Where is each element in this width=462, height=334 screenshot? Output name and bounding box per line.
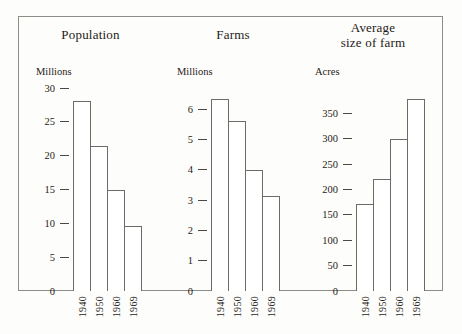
bar (407, 99, 425, 291)
tick-dash-icon (198, 139, 207, 140)
panel-population-bars (73, 88, 142, 291)
panel-farms-bars (211, 88, 280, 291)
panel-acres-title-line2: size of farm (303, 35, 443, 50)
bar (211, 99, 229, 291)
tick-dash-icon (60, 88, 69, 89)
bar (124, 226, 142, 291)
tick-dash-icon (60, 189, 69, 190)
x-tick-label: 1940 (73, 296, 91, 317)
tick-dash-icon (60, 155, 69, 156)
panel-population: Population Millions 30 25 20 15 10 5 0 1… (18, 0, 163, 334)
tick-dash-icon (343, 189, 352, 190)
bar (107, 190, 125, 292)
tick-dash-icon (60, 291, 69, 292)
panel-farms-x-axis: 1940 1950 1960 1969 (211, 291, 291, 334)
panel-farms: Farms Millions 6 5 4 3 2 1 0 1940 1950 1… (163, 0, 303, 334)
tick-dash-icon (343, 138, 352, 139)
tick-dash-icon (60, 257, 69, 258)
bar-chart-figure: Population Millions 30 25 20 15 10 5 0 1… (0, 0, 462, 334)
panel-acres-bars (356, 88, 425, 291)
x-tick-label: 1960 (245, 296, 263, 317)
panel-acres-plot: 350 300 250 200 150 100 50 0 (356, 88, 436, 291)
x-tick-label: 1950 (373, 296, 391, 317)
panel-acres-title-line1: Average (303, 20, 443, 35)
tick-dash-icon (198, 200, 207, 201)
bar (262, 196, 280, 291)
tick-dash-icon (343, 240, 352, 241)
panel-farms-unit-label: Millions (177, 66, 213, 77)
bar (373, 179, 391, 291)
panel-farms-plot: 6 5 4 3 2 1 0 (211, 88, 291, 291)
bar (73, 101, 91, 291)
tick-dash-icon (343, 113, 352, 114)
bar (356, 204, 374, 291)
x-tick-label: 1950 (228, 296, 246, 317)
panel-population-x-axis: 1940 1950 1960 1969 (73, 291, 153, 334)
tick-dash-icon (198, 291, 207, 292)
panel-acres-x-axis: 1940 1950 1960 1969 (356, 291, 436, 334)
x-tick-label: 1969 (124, 296, 142, 317)
tick-dash-icon (343, 265, 352, 266)
panel-population-title: Population (18, 27, 163, 42)
x-tick-label: 1960 (107, 296, 125, 317)
tick-dash-icon (343, 164, 352, 165)
bar (90, 146, 108, 291)
tick-dash-icon (343, 214, 352, 215)
tick-dash-icon (60, 223, 69, 224)
panel-acres-unit-label: Acres (315, 66, 340, 77)
tick-dash-icon (198, 260, 207, 261)
panel-population-unit-label: Millions (36, 66, 72, 77)
bar (390, 139, 408, 291)
tick-dash-icon (198, 169, 207, 170)
panel-acres-title: Average size of farm (303, 20, 443, 50)
tick-dash-icon (198, 230, 207, 231)
tick-dash-icon (198, 109, 207, 110)
x-tick-label: 1950 (90, 296, 108, 317)
x-tick-label: 1940 (211, 296, 229, 317)
x-tick-label: 1969 (262, 296, 280, 317)
tick-dash-icon (343, 291, 352, 292)
x-tick-label: 1940 (356, 296, 374, 317)
bar (245, 170, 263, 291)
x-tick-label: 1960 (390, 296, 408, 317)
panel-farms-title: Farms (163, 27, 303, 42)
tick-dash-icon (60, 121, 69, 122)
bar (228, 121, 246, 291)
panel-population-plot: 30 25 20 15 10 5 0 (73, 88, 153, 291)
panel-acres: Average size of farm Acres 350 300 250 2… (303, 0, 443, 334)
x-tick-label: 1969 (407, 296, 425, 317)
